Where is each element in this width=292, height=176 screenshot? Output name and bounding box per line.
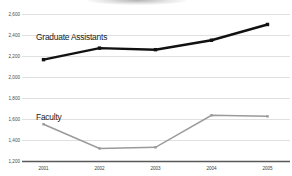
data-point-marker [98, 147, 100, 149]
data-point-marker [266, 23, 269, 26]
y-axis-tick-label: 1,600 [0, 117, 20, 122]
y-axis-tick-label: 2,600 [0, 12, 20, 17]
y-axis-tick-label: 1,200 [0, 159, 20, 164]
line-chart: 2,6002,4002,2002,0001,8001,6001,4001,200… [0, 0, 292, 176]
x-axis-tick-label: 2004 [197, 166, 227, 172]
data-point-marker [42, 58, 45, 61]
plot-area: 2,6002,4002,2002,0001,8001,6001,4001,200… [0, 0, 292, 176]
chart-canvas [0, 0, 292, 176]
y-axis-tick-label: 2,000 [0, 75, 20, 80]
data-point-marker [154, 146, 156, 148]
series-graduate-assistants [42, 23, 269, 62]
y-axis-tick-label: 2,400 [0, 33, 20, 38]
y-axis-tick-label: 1,800 [0, 96, 20, 101]
series-line [44, 24, 268, 59]
data-point-marker [210, 39, 213, 42]
series-label-graduate-assistants: Graduate Assistants [36, 32, 107, 42]
x-axis-tick-label: 2002 [85, 166, 115, 172]
data-point-marker [42, 123, 44, 125]
x-axis-tick-label: 2005 [253, 166, 283, 172]
x-axis-tick-label: 2001 [29, 166, 59, 172]
y-axis-tick-label: 1,400 [0, 138, 20, 143]
data-point-marker [210, 114, 212, 116]
data-point-marker [266, 115, 268, 117]
series-line [44, 115, 268, 148]
data-point-marker [154, 48, 157, 51]
series-label-faculty: Faculty [36, 112, 62, 122]
x-axis-tick-label: 2003 [141, 166, 171, 172]
data-point-marker [98, 46, 101, 49]
y-axis-tick-label: 2,200 [0, 54, 20, 59]
